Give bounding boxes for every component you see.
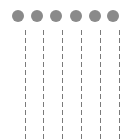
dashed-line: [119, 30, 120, 140]
dashed-line: [62, 30, 63, 140]
dashed-line: [81, 30, 82, 140]
circle-icon: [12, 10, 24, 22]
dashed-line: [100, 30, 101, 140]
dashed-line: [43, 30, 44, 140]
circle-icon: [50, 10, 62, 22]
circle-icon: [89, 10, 101, 22]
circle-icon: [107, 10, 119, 22]
circle-icon: [70, 10, 82, 22]
circle-icon: [31, 10, 43, 22]
dashed-line: [25, 30, 26, 140]
